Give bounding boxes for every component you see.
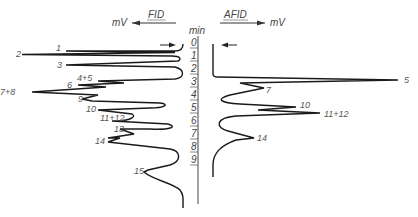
afid-label: AFID — [223, 9, 247, 20]
svg-text:7: 7 — [191, 128, 197, 139]
fid-label: FID — [148, 9, 164, 20]
chromatogram: mV FID AFID mV min 0 1 2 3 4 5 6 7 8 9 1… — [0, 0, 418, 217]
svg-text:11+12: 11+12 — [100, 113, 125, 123]
svg-text:5: 5 — [404, 75, 410, 85]
svg-text:7+8: 7+8 — [0, 87, 15, 97]
svg-text:3: 3 — [191, 76, 197, 87]
svg-text:4+5: 4+5 — [77, 73, 93, 83]
svg-text:14: 14 — [95, 136, 105, 146]
injection-arrow-icon — [169, 43, 176, 48]
svg-text:11+12: 11+12 — [324, 109, 349, 119]
svg-text:10: 10 — [300, 100, 310, 110]
afid-peak-labels: 5 7 10 11+12 14 — [257, 75, 410, 143]
svg-text:7: 7 — [266, 85, 272, 95]
afid-trace — [213, 44, 398, 177]
fid-arrow-icon — [132, 21, 140, 26]
svg-text:5: 5 — [191, 102, 197, 113]
svg-text:10: 10 — [86, 104, 96, 114]
svg-text:1: 1 — [191, 50, 197, 61]
svg-text:0: 0 — [191, 37, 197, 48]
svg-text:9: 9 — [191, 154, 197, 165]
axis-unit-label: min — [189, 25, 206, 36]
svg-text:3: 3 — [57, 60, 62, 70]
afid-unit-label: mV — [270, 17, 286, 28]
svg-text:9: 9 — [78, 94, 83, 104]
svg-text:8: 8 — [191, 141, 197, 152]
svg-text:15: 15 — [134, 166, 145, 176]
svg-text:2: 2 — [15, 49, 21, 59]
svg-text:13: 13 — [114, 124, 124, 134]
svg-text:6: 6 — [191, 115, 197, 126]
svg-text:6: 6 — [67, 80, 72, 90]
injection-arrow-icon — [221, 43, 228, 48]
svg-text:4: 4 — [191, 89, 197, 100]
fid-trace — [22, 44, 183, 208]
axis-ticks: 0 1 2 3 4 5 6 7 8 9 — [190, 37, 198, 165]
svg-text:14: 14 — [257, 133, 267, 143]
svg-text:2: 2 — [190, 63, 197, 74]
fid-unit-label: mV — [112, 17, 128, 28]
svg-text:1: 1 — [56, 43, 61, 53]
afid-arrow-icon — [257, 21, 265, 26]
